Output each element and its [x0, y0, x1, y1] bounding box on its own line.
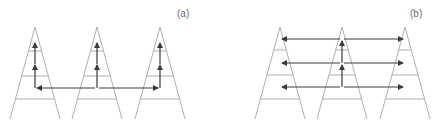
panel-a: [10, 27, 185, 119]
panel-a-label: (a): [177, 8, 189, 19]
tree-triangle: [380, 27, 430, 119]
panel-b: [255, 27, 430, 119]
diagram-canvas: [0, 0, 443, 121]
panel-b-label: (b): [410, 8, 422, 19]
tree-triangle: [255, 27, 305, 119]
